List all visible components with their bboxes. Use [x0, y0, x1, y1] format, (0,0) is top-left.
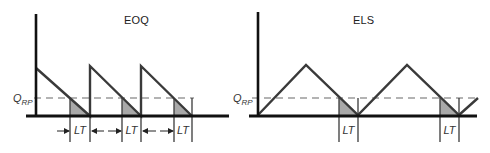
eoq-panel-title: EOQ: [124, 14, 149, 26]
eoq-lead-time-label: LT: [122, 124, 142, 136]
els-panel-title: ELS: [353, 14, 374, 26]
rp-subscript: RP: [22, 98, 33, 107]
q-symbol: Q: [13, 92, 22, 104]
rp-subscript: RP: [242, 98, 253, 107]
eoq-inventory-profile: [36, 66, 192, 116]
eoq-reorder-point-label: QRP: [13, 92, 33, 107]
q-symbol: Q: [233, 92, 242, 104]
els-reorder-point-label: QRP: [233, 92, 253, 107]
eoq-lead-time-label: LT: [70, 124, 90, 136]
els-lead-time-label: LT: [440, 124, 460, 136]
eoq-lead-time-label: LT: [173, 124, 193, 136]
inventory-diagram: EOQ QRP ELS QRP LTLTLTLTLT: [0, 0, 490, 153]
els-lead-time-label: LT: [339, 124, 359, 136]
